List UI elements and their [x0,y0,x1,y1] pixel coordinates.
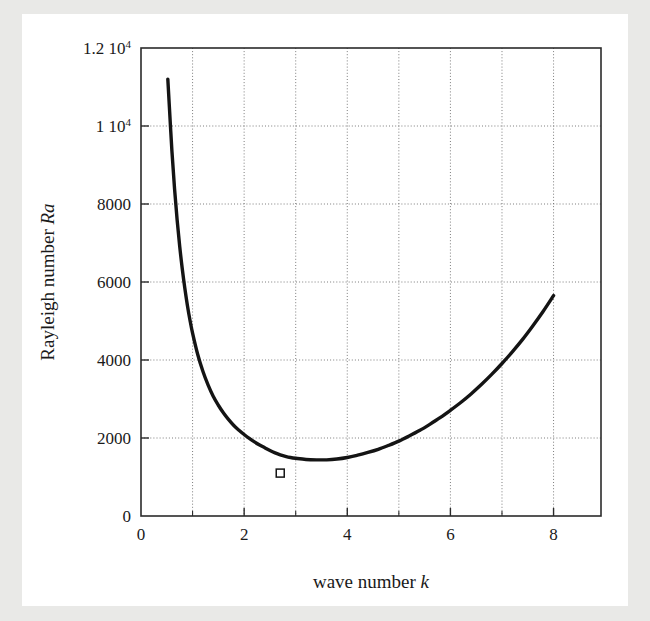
y-tick-label: 4000 [97,351,131,370]
x-tick-label: 2 [240,525,249,544]
rayleigh-chart: 02468 020004000600080001 1041.2 104 wave… [22,14,628,606]
y-tick-label: 8000 [97,195,131,214]
y-tick-label: 1.2 104 [83,38,132,58]
y-axis-title: Rayleigh number Ra [37,203,58,360]
data-markers-group [276,469,284,477]
figure-container: 02468 020004000600080001 1041.2 104 wave… [22,14,628,606]
y-tick-label: 6000 [97,273,131,292]
figure-canvas [22,14,628,606]
y-tick-label: 0 [123,507,132,526]
y-tick-label: 2000 [97,429,131,448]
critical-point-marker [276,469,284,477]
x-tick-label: 6 [446,525,455,544]
x-tick-label: 0 [137,525,146,544]
x-axis-title: wave number k [313,571,430,592]
x-tick-label: 4 [343,525,352,544]
x-tick-label: 8 [549,525,558,544]
